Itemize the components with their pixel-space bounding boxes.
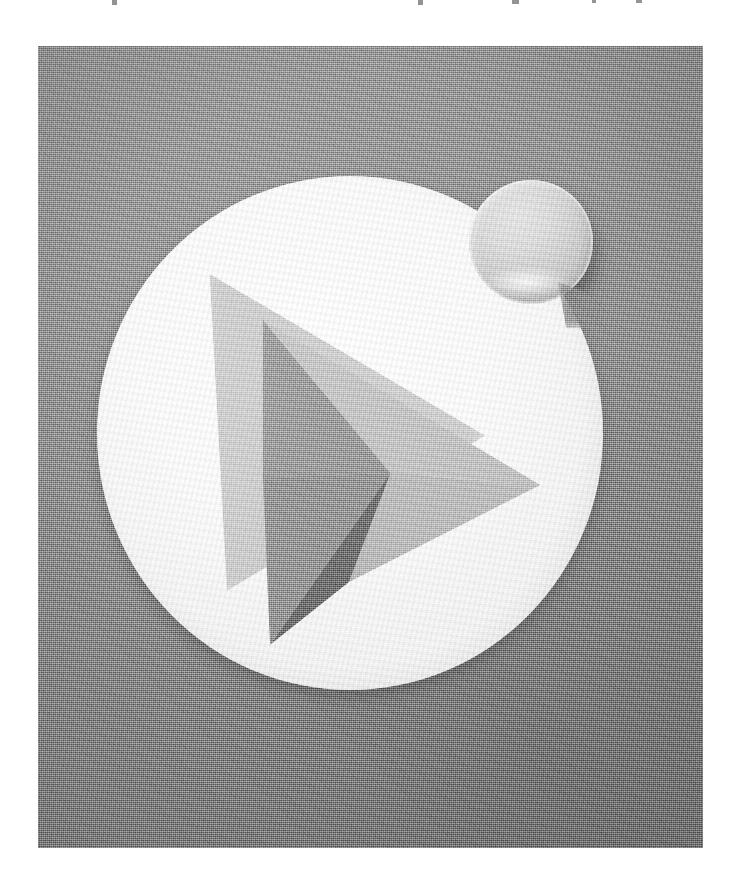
photo-plate xyxy=(38,46,703,848)
cut-text-mark xyxy=(112,0,117,5)
cut-text-mark xyxy=(512,0,519,4)
page-root xyxy=(0,0,743,896)
app-icon xyxy=(38,46,703,848)
cut-text-mark xyxy=(592,0,596,3)
cut-text-mark xyxy=(418,0,423,5)
cut-text-mark xyxy=(636,0,642,3)
cut-text-line xyxy=(0,0,743,12)
